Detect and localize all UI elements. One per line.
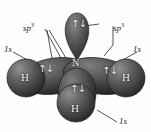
nitrogen-label: N bbox=[72, 58, 79, 68]
one-s-label-right: 1s bbox=[133, 45, 141, 54]
bond-arrows-bottom: ↑↓ bbox=[70, 84, 85, 94]
lone-pair-arrows: ↑↓ bbox=[71, 19, 86, 29]
sp3-label-right: sp3 bbox=[113, 22, 124, 33]
one-s-label-left: 1s bbox=[4, 45, 12, 54]
hydrogen-label-left: H bbox=[21, 72, 29, 83]
hydrogen-label-right: H bbox=[122, 72, 130, 83]
sp3-label-left: sp3 bbox=[23, 22, 34, 33]
hydrogen-label-bottom: H bbox=[71, 103, 79, 114]
bond-arrows-left: ↑↓ bbox=[38, 64, 53, 74]
orbital-diagram-figure: sp3 sp3 1s 1s 1s N H H H ↑↓ ↑↓ ↑↓ ↑↓ bbox=[0, 0, 151, 132]
bond-arrows-right: ↑↓ bbox=[102, 66, 117, 76]
one-s-label-bottom: 1s bbox=[119, 117, 127, 126]
